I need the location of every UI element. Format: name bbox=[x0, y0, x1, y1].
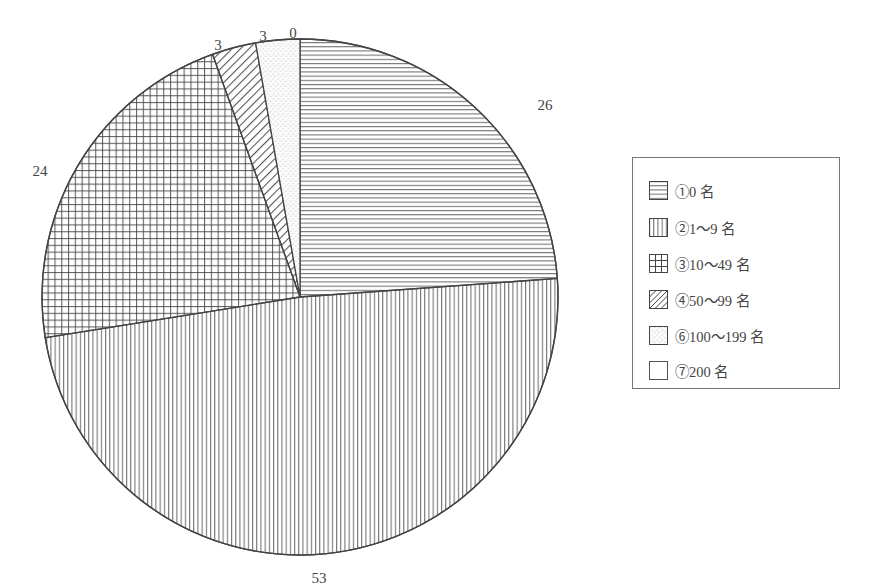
horizontal-lines-swatch-icon bbox=[649, 181, 668, 200]
legend-item-1-9-staff: ②1〜9 名 bbox=[649, 217, 735, 237]
pie-slices bbox=[42, 39, 558, 555]
legend-label: ④50〜99 名 bbox=[675, 289, 750, 310]
legend-item-100-199-staff: ⑥100〜199 名 bbox=[649, 325, 764, 345]
slice-label-1-9-staff: 53 bbox=[312, 570, 327, 586]
slice-label-10-49-staff: 24 bbox=[33, 163, 48, 180]
legend: ①0 名 ②1〜9 名 ③10〜49 名 ④50〜99 名 ⑥100〜199 名… bbox=[632, 157, 840, 389]
legend-item-0-staff: ①0 名 bbox=[649, 180, 714, 200]
diagonal-lines-swatch-icon bbox=[649, 290, 668, 309]
slice-label-100-199-staff: 3 bbox=[259, 28, 267, 45]
legend-item-50-99-staff: ④50〜99 名 bbox=[649, 289, 750, 309]
dots-swatch-icon bbox=[649, 326, 668, 345]
legend-item-200-staff: ⑦200 名 bbox=[649, 360, 728, 380]
slice-label-200-staff: 0 bbox=[289, 25, 297, 42]
legend-label: ⑥100〜199 名 bbox=[675, 325, 764, 346]
grid-swatch-icon bbox=[649, 254, 668, 273]
legend-label: ③10〜49 名 bbox=[675, 253, 750, 274]
legend-label: ①0 名 bbox=[675, 180, 714, 201]
legend-item-10-49-staff: ③10〜49 名 bbox=[649, 253, 750, 273]
legend-label: ②1〜9 名 bbox=[675, 217, 735, 238]
legend-label: ⑦200 名 bbox=[675, 360, 728, 381]
slice-label-0-staff: 26 bbox=[538, 97, 553, 114]
pie-slice-0 bbox=[300, 39, 557, 297]
slice-label-50-99-staff: 3 bbox=[214, 37, 222, 54]
blank-swatch-icon bbox=[649, 361, 668, 380]
vertical-lines-swatch-icon bbox=[649, 218, 668, 237]
